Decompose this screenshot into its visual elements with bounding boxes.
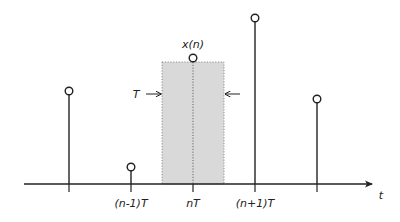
value-label: x(n) — [181, 38, 204, 51]
tick-label-n-minus-1: (n-1)T — [114, 197, 149, 210]
sample-stem-3 — [251, 14, 259, 184]
axis-ticks — [69, 184, 317, 192]
sample-circle-icon — [251, 14, 259, 22]
sample-circle-icon — [189, 54, 197, 62]
sample-stem-4 — [313, 95, 321, 184]
sample-circle-icon — [127, 163, 135, 171]
sample-stem-2 — [189, 54, 197, 62]
shaded-interval — [162, 62, 224, 184]
sample-circle-icon — [313, 95, 321, 103]
tick-label-n: nT — [186, 197, 201, 210]
sampled-signal-diagram: T x(n) (n-1)T nT (n+1)T t — [0, 0, 400, 222]
sample-stem-1 — [127, 163, 135, 184]
sample-stem-0 — [65, 87, 73, 184]
axis-label-t: t — [379, 189, 384, 202]
tick-label-n-plus-1: (n+1)T — [236, 197, 276, 210]
sample-circle-icon — [65, 87, 73, 95]
interval-T-label: T — [133, 88, 141, 101]
